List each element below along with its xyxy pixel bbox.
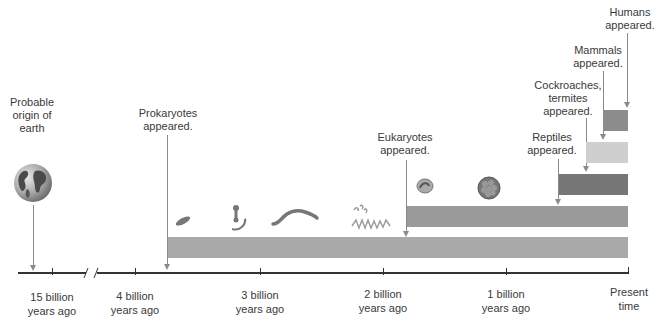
earth-pointer-line — [33, 205, 34, 267]
label-cockroaches-termites: Cockroaches, termites appeared. — [533, 79, 603, 118]
mammals-arrow-icon — [600, 134, 606, 140]
tick-label-line: years ago — [236, 302, 284, 316]
bar-reptiles — [559, 174, 628, 195]
tick-label-4-billion: 4 billion years ago — [111, 289, 159, 317]
bar-mammals — [603, 110, 628, 131]
tick-4-billion — [135, 268, 136, 275]
eukaryotes-arrow-icon — [403, 231, 409, 237]
label-line: earth — [4, 122, 60, 135]
tick-label-line: 15 billion — [28, 290, 76, 304]
tick-label-line: time — [610, 299, 648, 313]
bar-cockroaches-termites — [586, 142, 628, 163]
timeline-axis-right — [97, 272, 629, 274]
cockroaches-arrow-icon — [583, 166, 589, 172]
tick-present — [628, 267, 629, 274]
tick-label-line: years ago — [359, 301, 407, 315]
tick-label-line: years ago — [28, 304, 76, 318]
earth-globe-icon — [13, 163, 53, 203]
label-line: appeared. — [138, 120, 198, 133]
tick-label-line: years ago — [111, 303, 159, 317]
label-line: Probable — [4, 96, 60, 109]
bar-prokaryotes — [168, 237, 628, 258]
tick-label-3-billion: 3 billion years ago — [236, 288, 284, 316]
label-line: termites — [533, 92, 603, 105]
prokaryotes-arrow-icon — [164, 264, 170, 270]
tick-2-billion — [383, 268, 384, 275]
protist-cell-icon — [416, 178, 434, 194]
bacteria-rod-icon — [174, 214, 192, 228]
tick-15-billion — [52, 268, 53, 275]
label-line: Eukaryotes — [375, 131, 435, 144]
label-line: Humans — [602, 6, 658, 19]
bacteria-spiral-icon — [271, 208, 319, 228]
tick-label-line: 1 billion — [482, 287, 530, 301]
label-humans: Humans appeared. — [602, 6, 658, 32]
label-line: appeared. — [375, 144, 435, 157]
tick-label-line: years ago — [482, 301, 530, 315]
label-line: appeared. — [524, 144, 580, 157]
label-reptiles: Reptiles appeared. — [524, 131, 580, 157]
label-eukaryotes: Eukaryotes appeared. — [375, 131, 435, 157]
bacteria-dumbbell-icon — [228, 204, 250, 232]
humans-pointer-line — [627, 33, 628, 103]
tick-label-line: 3 billion — [236, 288, 284, 302]
label-line: Prokaryotes — [138, 107, 198, 120]
label-line: Reptiles — [524, 131, 580, 144]
tick-label-15-billion: 15 billion years ago — [28, 290, 76, 318]
tick-label-line: 4 billion — [111, 289, 159, 303]
reptiles-arrow-icon — [555, 199, 561, 205]
humans-arrow-icon — [624, 102, 630, 108]
colonial-algae-icon — [477, 176, 501, 200]
label-earth-origin: Probable origin of earth — [4, 96, 60, 135]
label-prokaryotes: Prokaryotes appeared. — [138, 107, 198, 133]
tick-label-2-billion: 2 billion years ago — [359, 287, 407, 315]
tick-1-billion — [506, 268, 507, 275]
label-line: appeared. — [568, 57, 628, 70]
tick-label-present: Present time — [610, 285, 648, 313]
tick-label-1-billion: 1 billion years ago — [482, 287, 530, 315]
filamentous-cells-icon — [350, 202, 392, 234]
label-line: Cockroaches, — [533, 79, 603, 92]
bar-eukaryotes — [407, 206, 628, 227]
label-mammals: Mammals appeared. — [568, 44, 628, 70]
tick-label-line: Present — [610, 285, 648, 299]
tick-label-line: 2 billion — [359, 287, 407, 301]
label-line: appeared. — [602, 19, 658, 32]
label-line: appeared. — [533, 105, 603, 118]
label-line: Mammals — [568, 44, 628, 57]
tick-3-billion — [260, 268, 261, 275]
label-line: origin of — [4, 109, 60, 122]
earth-arrow-icon — [30, 265, 36, 271]
